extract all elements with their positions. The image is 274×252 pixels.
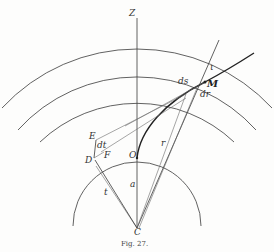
radius-line-3 [139,88,197,228]
radius-line-2 [137,94,186,228]
ray-curve [137,53,254,158]
label-r: r [161,138,166,148]
figure-caption: Fig. 27. [121,240,148,248]
label-t: t [104,187,108,197]
label-dt: dt [97,140,107,150]
label-angle: ι [210,62,214,72]
line-ed [94,140,96,158]
line-e-tangent [96,94,186,140]
label-c: C [134,227,141,237]
label-ds: ds [178,76,189,86]
label-dr: dr [200,89,211,99]
diagram-figure: Z ι ds M dr E dt F D O r a t C Fig. 27. [0,0,274,252]
line-df [94,152,104,158]
label-d: D [84,155,92,165]
label-o: O [129,150,137,160]
label-f: F [103,150,111,160]
line-cd [95,160,137,228]
label-e: E [88,131,96,141]
label-m: M [206,78,219,89]
diagram-svg: Z ι ds M dr E dt F D O r a t C Fig. 27. [0,0,274,252]
label-a: a [130,179,135,189]
label-z: Z [128,8,136,18]
